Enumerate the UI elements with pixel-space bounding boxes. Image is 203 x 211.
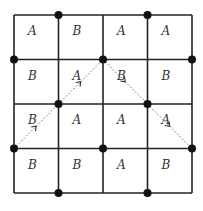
vertex-dot	[188, 56, 196, 64]
cell-label: B	[161, 158, 171, 172]
cell-label: B	[72, 158, 82, 172]
cell-label: A	[116, 158, 126, 172]
cell-label: B	[161, 69, 171, 83]
vertex-dot	[55, 100, 63, 108]
vertex-dot	[188, 145, 196, 153]
cell-label: A	[72, 113, 82, 127]
vertex-dot	[10, 145, 18, 153]
vertex-dot	[99, 145, 107, 153]
cell-label: A	[72, 69, 82, 83]
cell-label: B	[72, 24, 82, 38]
cell-label: A	[116, 113, 126, 127]
cell-label: A	[161, 113, 171, 127]
cell-label: A	[116, 24, 126, 38]
cell-label: B	[116, 69, 126, 83]
vertex-dot	[10, 56, 18, 64]
cell-label: A	[161, 24, 171, 38]
vertex-dot	[144, 189, 152, 197]
vertex-dot	[55, 189, 63, 197]
vertex-dot	[99, 56, 107, 64]
vertex-dot	[144, 100, 152, 108]
cell-label: B	[27, 113, 37, 127]
vertex-dot	[144, 11, 152, 19]
grid-diagram: ABAABABBBAAABBAB	[0, 0, 203, 211]
cell-label: A	[27, 24, 37, 38]
cell-label: B	[27, 69, 37, 83]
vertex-dot	[55, 11, 63, 19]
cell-label: B	[27, 158, 37, 172]
